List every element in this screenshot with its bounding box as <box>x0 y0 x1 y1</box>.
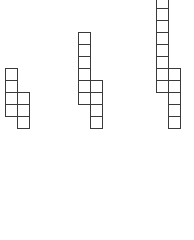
tile-square <box>90 116 103 129</box>
tile-square <box>17 116 30 129</box>
tile-square <box>168 116 181 129</box>
